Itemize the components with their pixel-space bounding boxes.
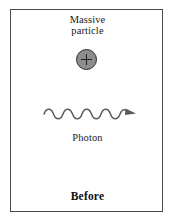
photon-label: Photon (72, 132, 102, 143)
photon-wave-arrow-icon (40, 103, 140, 125)
massive-particle-caption-line-2: particle (0, 25, 175, 36)
state-caption: Before (71, 190, 105, 202)
physics-figure: Massive particle Photon Before (0, 0, 175, 223)
state-caption-container: Before (0, 186, 175, 204)
massive-particle-circle (76, 49, 97, 70)
plus-charge-vertical-stroke (86, 54, 87, 65)
massive-particle-caption-line-1: Massive (0, 14, 175, 25)
plus-charge-icon (77, 50, 96, 69)
photon-label-container: Photon (0, 127, 175, 145)
massive-particle-caption: Massive particle (0, 14, 175, 36)
